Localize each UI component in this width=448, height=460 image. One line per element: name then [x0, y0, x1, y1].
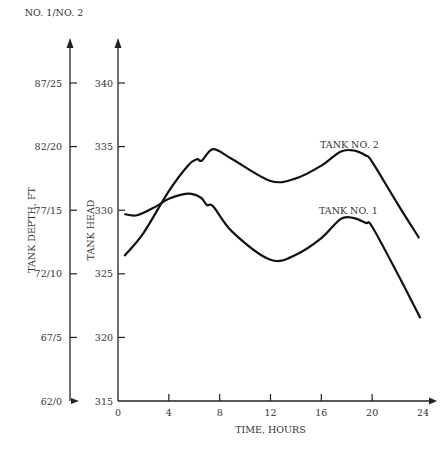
- secondary-y-tick-label: 62/0: [41, 396, 62, 407]
- x-tick-label: 8: [217, 407, 223, 418]
- secondary-y-tick-label: 77/15: [35, 205, 62, 216]
- secondary-axis-header: NO. 1/NO. 2: [25, 7, 83, 18]
- y-tick-label: 335: [95, 141, 113, 152]
- x-tick-label: 20: [366, 407, 378, 418]
- y-tick-label: 320: [95, 332, 113, 343]
- x-tick-label: 16: [315, 407, 327, 418]
- y-tick-label: 315: [95, 396, 113, 407]
- y-tick-label: 330: [95, 205, 113, 216]
- y-tick-label: 325: [95, 268, 113, 279]
- x-tick-label: 12: [264, 407, 276, 418]
- secondary-axis-bottom-arrow-icon: [71, 398, 79, 404]
- secondary-y-tick-label: 67/5: [41, 332, 62, 343]
- secondary-y-axis-title: TANK DEPTH, FT: [26, 187, 37, 273]
- y-axis-title: TANK HEAD: [85, 199, 96, 260]
- x-tick-label: 0: [115, 407, 121, 418]
- tank-1-label: TANK NO. 1: [319, 205, 378, 216]
- x-tick-label: 24: [417, 407, 429, 418]
- tank-2-curve: [124, 149, 419, 256]
- secondary-y-tick-label: 82/20: [35, 141, 62, 152]
- chart: 31562/032067/532572/1033077/1533582/2034…: [0, 0, 448, 460]
- y-axis-arrow-icon: [115, 38, 122, 48]
- y-tick-label: 340: [95, 78, 113, 89]
- secondary-y-tick-label: 87/25: [35, 78, 62, 89]
- x-tick-label: 4: [166, 407, 172, 418]
- x-axis-title: TIME, HOURS: [235, 424, 306, 435]
- secondary-y-tick-label: 72/10: [35, 268, 62, 279]
- tank-2-label: TANK NO. 2: [320, 139, 379, 150]
- x-axis-arrow-icon: [429, 398, 437, 405]
- secondary-axis-arrow-icon: [67, 38, 74, 48]
